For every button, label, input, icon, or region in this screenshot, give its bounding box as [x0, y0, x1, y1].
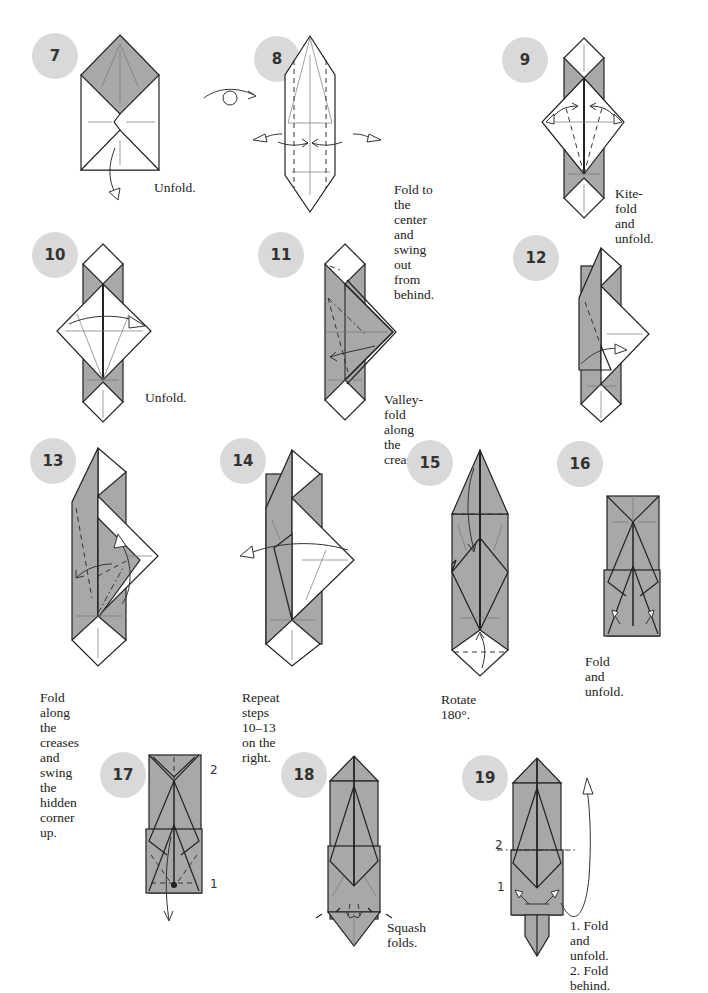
step-number-badge: 19	[462, 755, 508, 801]
step-17-diagram	[145, 755, 205, 930]
step-caption: Unfold.	[145, 390, 187, 405]
step-caption: Repeat steps 10–13 on the right.	[242, 690, 279, 765]
step-16-diagram	[600, 496, 660, 636]
step-18-diagram	[328, 756, 398, 946]
step-caption: Kite-fold and unfold.	[615, 186, 654, 246]
fold-marker-2: 2	[210, 763, 218, 777]
fold-marker-2: 2	[495, 838, 503, 852]
reference-dot-icon	[171, 882, 177, 888]
step-caption: Unfold.	[154, 180, 196, 195]
unfold-arrow-icon	[236, 540, 376, 570]
step-15-diagram	[450, 450, 520, 680]
step-caption: 1. Fold and unfold. 2. Fold behind.	[570, 918, 610, 993]
step-number-badge: 15	[407, 440, 453, 486]
step-number-badge: 18	[281, 752, 327, 798]
step-12-diagram	[567, 246, 667, 421]
step-number-badge: 12	[513, 235, 559, 281]
step-number-badge: 11	[258, 232, 304, 278]
step-number-badge: 16	[557, 441, 603, 487]
step-13-diagram	[68, 448, 168, 678]
step-caption: Fold along the creases and swing the hid…	[40, 690, 79, 840]
step-number-badge: 17	[100, 752, 146, 798]
swing-out-arrow-icon	[245, 130, 395, 160]
step-caption: Squash folds.	[387, 920, 426, 950]
step-number-badge: 14	[220, 438, 266, 484]
turn-over-icon	[200, 85, 260, 115]
step-caption: Fold and unfold.	[585, 654, 624, 699]
step-8-diagram	[280, 30, 400, 220]
fold-marker-1: 1	[497, 880, 505, 894]
fold-marker-1: 1	[210, 877, 218, 891]
fold-behind-arrow-icon	[561, 778, 593, 917]
step-caption: Rotate 180°.	[441, 692, 476, 722]
